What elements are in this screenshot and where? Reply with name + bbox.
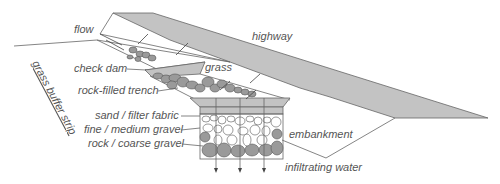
- trench-cross-section: [190, 98, 290, 173]
- label-grass: grass: [205, 61, 232, 73]
- rocks-lower: [153, 73, 256, 97]
- infiltration-trench-diagram: flow highway check dam grass rock-filled…: [0, 0, 500, 184]
- label-fine-medium-gravel: fine / medium gravel: [84, 123, 184, 135]
- label-check-dam: check dam: [74, 62, 127, 74]
- label-rock-filled-trench: rock-filled trench: [78, 84, 159, 96]
- label-grass-buffer-strip: grass buffer strip: [30, 58, 79, 136]
- highway-surface: [100, 13, 488, 118]
- label-rock-coarse-gravel: rock / coarse gravel: [88, 137, 185, 149]
- label-infiltrating-water: infiltrating water: [285, 161, 363, 173]
- fine-gravel-layer: [202, 115, 281, 136]
- label-highway: highway: [252, 30, 294, 42]
- label-flow: flow: [74, 23, 95, 35]
- label-sand-filter-fabric: sand / filter fabric: [95, 109, 179, 121]
- label-embankment: embankment: [289, 128, 354, 140]
